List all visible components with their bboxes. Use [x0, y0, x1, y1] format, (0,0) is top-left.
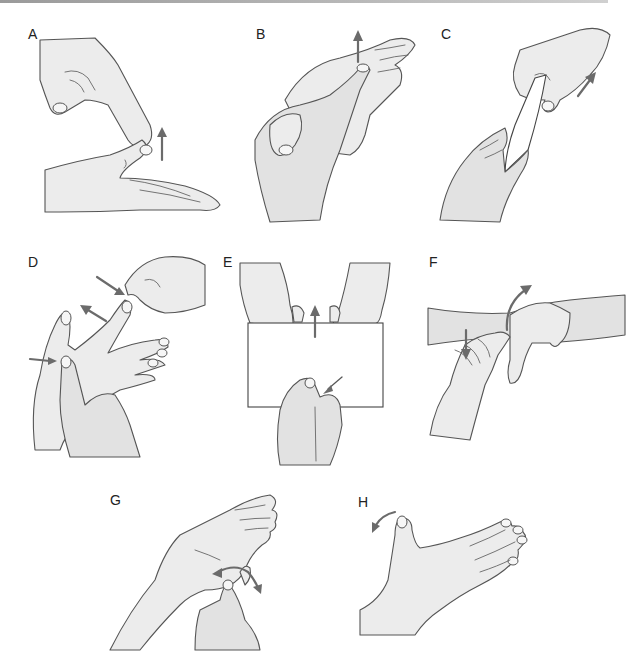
illustration-a [0, 0, 230, 225]
illustration-b [210, 0, 420, 225]
illustration-e [210, 225, 420, 465]
panel-f: F [410, 225, 630, 465]
panel-c: C [410, 0, 630, 225]
panel-a: A [0, 0, 230, 225]
panel-b: B [210, 0, 420, 225]
panel-h: H [340, 460, 600, 664]
illustration-d [0, 225, 230, 460]
illustration-f [410, 225, 630, 465]
panel-g: G [100, 460, 340, 664]
illustration-g [100, 460, 340, 664]
illustration-c [410, 0, 630, 225]
illustration-h [340, 460, 600, 664]
panel-d: D [0, 225, 230, 460]
panel-e: E [210, 225, 420, 465]
